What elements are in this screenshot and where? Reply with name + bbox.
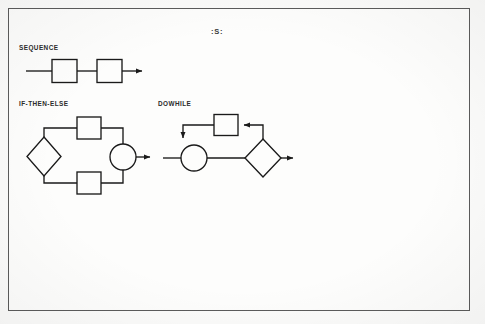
sequence-diagram-label: SEQUENCE <box>19 44 58 51</box>
page-canvas: :S: SEQUENCE IF-THEN-ELSE DOWHILE <box>0 0 485 324</box>
figure-caption: :S: <box>211 27 223 36</box>
figure-border-frame <box>8 8 470 311</box>
dowhile-diagram-label: DOWHILE <box>158 100 191 107</box>
if-then-else-diagram-label: IF-THEN-ELSE <box>19 100 68 107</box>
